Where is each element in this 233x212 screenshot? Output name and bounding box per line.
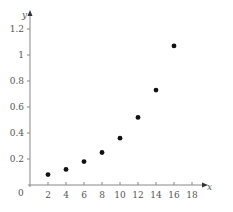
origin-label: 0 — [18, 188, 24, 198]
data-point — [46, 172, 51, 177]
x-tick-label: 12 — [132, 190, 143, 200]
y-tick-label: 0.2 — [10, 154, 24, 164]
data-point — [172, 44, 177, 49]
x-tick-label: 16 — [168, 190, 180, 200]
y-tick-label: 0.6 — [10, 102, 25, 112]
x-tick-label: 4 — [63, 190, 69, 200]
data-points — [46, 44, 177, 178]
y-axis-label: y — [21, 10, 28, 20]
data-point — [118, 136, 123, 141]
x-tick-label: 18 — [186, 190, 198, 200]
x-tick-label: 6 — [81, 190, 87, 200]
scatter-chart: 246810121416180.20.40.60.811.2 0 x y — [0, 0, 233, 212]
x-tick-label: 14 — [150, 190, 162, 200]
y-tick-label: 0.4 — [10, 128, 25, 138]
y-tick-label: 0.8 — [10, 76, 25, 86]
y-axis-arrow-icon — [28, 10, 33, 16]
x-tick-label: 10 — [114, 190, 126, 200]
data-point — [154, 88, 159, 93]
y-tick-label: 1 — [18, 50, 24, 60]
x-axis-label: x — [207, 182, 212, 192]
x-tick-label: 8 — [99, 190, 105, 200]
data-point — [64, 167, 69, 172]
ticks: 246810121416180.20.40.60.811.2 — [10, 24, 198, 200]
axes — [28, 10, 209, 188]
data-point — [100, 150, 105, 155]
x-tick-label: 2 — [45, 190, 51, 200]
y-tick-label: 1.2 — [10, 24, 24, 34]
data-point — [136, 115, 141, 120]
data-point — [82, 159, 87, 164]
